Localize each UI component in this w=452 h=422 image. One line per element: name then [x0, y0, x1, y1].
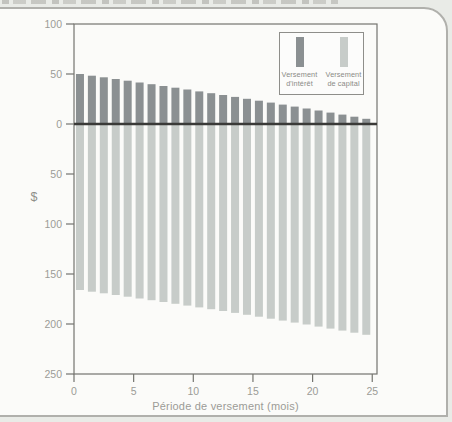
interest-bar-1: [76, 74, 84, 124]
interest-bar-17: [267, 103, 275, 124]
chart-canvas: 100500501001502002500510152025: [2, 2, 452, 422]
capital-bar-4: [112, 124, 120, 295]
capital-bar-6: [136, 124, 144, 299]
rounded-panel: 100500501001502002500510152025 $ Période…: [0, 7, 448, 417]
capital-bar-1: [76, 124, 84, 290]
legend-label-interet: Versement d'intérêt: [282, 71, 318, 89]
interest-bar-8: [159, 86, 167, 124]
x-tick-label: 0: [71, 385, 77, 397]
capital-bar-16: [255, 124, 263, 317]
capital-bar-13: [219, 124, 227, 311]
y-tick-label: 0: [56, 118, 62, 130]
x-tick-label: 5: [131, 385, 137, 397]
interest-bar-18: [279, 105, 287, 124]
interest-bar-swatch: [296, 37, 304, 67]
capital-bar-swatch: [340, 37, 348, 67]
interest-bar-7: [148, 84, 156, 124]
interest-bar-21: [315, 111, 323, 125]
x-tick-label: 20: [307, 385, 319, 397]
y-tick-label: 50: [50, 68, 62, 80]
capital-bar-19: [291, 124, 299, 323]
capital-bar-18: [279, 124, 287, 321]
interest-bar-2: [88, 76, 96, 124]
x-tick-label: 25: [366, 385, 378, 397]
interest-bar-22: [326, 113, 334, 124]
interest-bar-10: [183, 90, 191, 125]
interest-bar-15: [243, 99, 251, 124]
interest-bar-6: [136, 83, 144, 125]
y-tick-label: 150: [44, 268, 62, 280]
interest-bar-13: [219, 95, 227, 124]
capital-bar-11: [195, 124, 203, 307]
capital-bar-22: [326, 124, 334, 329]
capital-bar-7: [148, 124, 156, 300]
y-tick-label: 250: [44, 368, 62, 380]
interest-bar-12: [207, 93, 215, 124]
y-tick-label: 50: [50, 168, 62, 180]
interest-bar-11: [195, 91, 203, 124]
capital-bar-23: [338, 124, 346, 331]
interest-bar-5: [124, 81, 132, 124]
interest-bar-19: [291, 107, 299, 124]
x-tick-label: 15: [247, 385, 259, 397]
interest-bar-23: [338, 115, 346, 124]
capital-bar-24: [350, 124, 358, 333]
interest-bar-14: [231, 97, 239, 124]
capital-bar-14: [231, 124, 239, 313]
x-axis-title: Période de versement (mois): [74, 400, 377, 412]
y-tick-label: 200: [44, 318, 62, 330]
capital-bar-15: [243, 124, 251, 315]
capital-bar-5: [124, 124, 132, 297]
chart-legend: Versement d'intérêt Versement de capital: [279, 32, 364, 95]
capital-bar-21: [315, 124, 323, 327]
legend-item-capital: Versement de capital: [325, 37, 363, 94]
capital-bar-10: [183, 124, 191, 306]
y-axis-title: $: [26, 190, 42, 204]
capital-bar-25: [362, 124, 370, 335]
x-tick-label: 10: [187, 385, 199, 397]
capital-bar-12: [207, 124, 215, 309]
legend-item-interet: Versement d'intérêt: [281, 37, 319, 94]
capital-bar-8: [159, 124, 167, 302]
interest-bar-4: [112, 79, 120, 124]
interest-bar-9: [171, 88, 179, 124]
legend-label-capital: Versement de capital: [326, 71, 362, 89]
y-tick-label: 100: [44, 218, 62, 230]
capital-bar-9: [171, 124, 179, 304]
capital-bar-20: [303, 124, 311, 325]
capital-bar-2: [88, 124, 96, 292]
interest-bar-20: [303, 109, 311, 125]
capital-bar-17: [267, 124, 275, 319]
interest-bar-3: [100, 77, 108, 124]
interest-bar-16: [255, 101, 263, 124]
y-tick-label: 100: [44, 18, 62, 30]
capital-bar-3: [100, 124, 108, 293]
amortization-chart: 100500501001502002500510152025 $ Période…: [2, 2, 452, 422]
